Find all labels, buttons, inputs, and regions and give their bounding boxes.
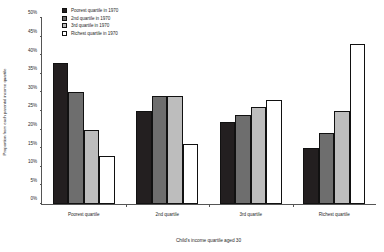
bar [220,122,236,204]
x-axis-tick-label: Poorest quartile [42,212,126,217]
y-axis-tick-mark [40,184,43,185]
y-axis-tick-label: 50% [1,11,37,16]
y-axis-tick-label: 30% [1,86,37,91]
y-axis-tick-label: 25% [1,104,37,109]
bar [235,115,251,204]
y-axis-tick-label: 5% [1,179,37,184]
legend-swatch-icon [62,23,67,28]
legend-label: Richest quartile in 1970 [71,31,118,36]
y-axis-tick-label: 15% [1,141,37,146]
bar [303,148,319,204]
y-axis-tick-mark [40,129,43,130]
y-axis-tick-label: 20% [1,123,37,128]
bar [183,144,199,204]
x-axis-tick-label: Richest quartile [293,212,377,217]
y-axis-tick-mark [40,36,43,37]
bar [152,96,168,204]
bar-group [126,18,210,204]
x-axis-tick-mark [293,204,294,207]
y-axis-tick-mark [40,91,43,92]
y-axis-title-container: Proportion from each parental income qua… [6,18,16,205]
bar-group [293,18,377,204]
x-axis-title: Child's income quartile aged 30 [41,238,376,244]
bar [68,92,84,204]
legend-label: 2nd quartile in 1970 [71,16,110,21]
bar [53,63,69,204]
y-axis-tick-mark [40,73,43,74]
y-axis-tick-mark [40,17,43,18]
legend-swatch-icon [62,8,67,13]
bar [350,44,366,204]
legend-label: Poorest quartile in 1970 [71,8,118,13]
y-axis-tick-label: 35% [1,67,37,72]
chart-legend: Poorest quartile in 19702nd quartile in … [62,8,118,36]
bar-group [42,18,126,204]
y-axis-tick-mark [40,147,43,148]
legend-label: 3rd quartile in 1970 [71,23,109,28]
legend-swatch-icon [62,16,67,21]
x-axis-tick-mark [209,204,210,207]
x-axis-tick-label: 2nd quartile [126,212,210,217]
bar [251,107,267,204]
y-axis-tick-mark [40,110,43,111]
x-axis-tick-label: 3rd quartile [209,212,293,217]
legend-item: Richest quartile in 1970 [62,31,118,36]
x-axis-tick-mark [126,204,127,207]
legend-item: Poorest quartile in 1970 [62,8,118,13]
y-axis-tick-label: 10% [1,160,37,165]
bar [167,96,183,204]
bar [136,111,152,204]
y-axis-tick-mark [40,166,43,167]
plot-frame: 0%5%10%15%20%25%30%35%40%45%50% Poorest … [41,18,376,205]
bar [334,111,350,204]
bar [84,130,100,204]
legend-swatch-icon [62,31,67,36]
bar [319,133,335,204]
y-axis-tick-mark [40,54,43,55]
bar-group [209,18,293,204]
legend-item: 3rd quartile in 1970 [62,23,118,28]
bar [99,156,115,204]
bar [266,100,282,204]
y-axis-tick-label: 45% [1,30,37,35]
y-axis-tick-label: 40% [1,48,37,53]
bar-chart: Proportion from each parental income qua… [0,0,384,252]
plot-area [42,18,376,204]
y-axis-tick-mark [40,203,43,204]
y-axis-tick-label: 0% [1,197,37,202]
legend-item: 2nd quartile in 1970 [62,16,118,21]
